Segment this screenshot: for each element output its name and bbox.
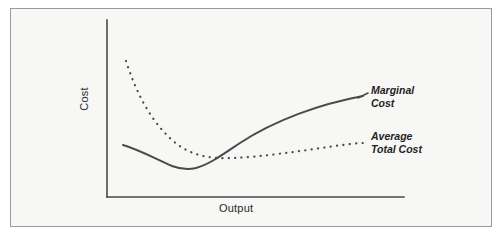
marginal-cost-label-line2: Cost	[371, 97, 414, 110]
average-total-cost-label: Average Total Cost	[371, 130, 422, 155]
average-total-cost-curve	[126, 61, 367, 158]
average-total-cost-label-line2: Total Cost	[371, 143, 422, 156]
marginal-cost-curve	[123, 96, 363, 169]
marginal-cost-leader-line	[358, 93, 368, 98]
y-axis-label: Cost	[78, 87, 90, 110]
x-axis-label: Output	[219, 202, 253, 214]
marginal-cost-label: Marginal Cost	[371, 84, 414, 109]
average-total-cost-label-line1: Average	[371, 130, 412, 142]
cost-curves-figure: Cost Output Marginal Cost Average Total …	[0, 0, 502, 243]
marginal-cost-label-line1: Marginal	[371, 84, 414, 96]
